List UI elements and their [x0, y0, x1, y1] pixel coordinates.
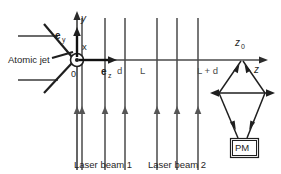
unit-vector-ez-arrowhead — [108, 56, 117, 64]
origin-center-dot — [75, 58, 79, 62]
distance-d-label: d — [117, 65, 122, 76]
distance-labels-group: d L L + d — [117, 65, 218, 76]
laser-beam-1-caption: Laser beam 1 — [74, 159, 132, 170]
y-axis-label: y — [80, 13, 87, 24]
figure-canvas: Atomic jet 0 e y e z y x z — [0, 0, 281, 174]
z0-label: z — [234, 37, 240, 48]
y-axis-arrowhead — [73, 11, 80, 20]
detection-edge-upper-left — [219, 61, 241, 93]
atomic-jet-label: Atomic jet — [8, 54, 50, 65]
distance-L-label: L — [140, 65, 145, 76]
detection-edge-lower-right — [247, 93, 265, 138]
unit-vector-ez-label: e — [101, 66, 107, 77]
laser-beam-arrowhead — [174, 106, 181, 114]
y-axis-beam-arrowhead — [74, 106, 81, 114]
unit-vector-ey-arrowhead — [73, 27, 81, 36]
laser-beam-arrowhead — [154, 106, 161, 114]
transverse-arrow-head-left — [210, 89, 219, 96]
detection-edge-lower-left — [219, 93, 238, 138]
laser-beam-arrowhead — [102, 106, 109, 114]
atomic-jet-group: Atomic jet — [8, 24, 73, 93]
unit-vector-ez-subscript: z — [108, 72, 112, 79]
laser-beam-2-caption: Laser beam 2 — [148, 159, 206, 170]
pm-detector-group: PM — [231, 139, 259, 158]
laser-beam-arrowhead — [195, 106, 202, 114]
atomic-jet-diagonal-bottom — [44, 63, 72, 93]
physics-diagram: Atomic jet 0 e y e z y x z — [0, 0, 281, 174]
origin-label: 0 — [71, 69, 76, 79]
x-axis-label: x — [82, 41, 87, 52]
axis-labels-group: y x z — [80, 13, 259, 75]
pm-detector-label: PM — [235, 142, 249, 153]
unit-vector-ey-label: e — [55, 30, 61, 41]
detection-region-group — [210, 61, 275, 138]
z-axis-label: z — [253, 64, 259, 75]
z0-label-group: z 0 — [234, 37, 245, 50]
z0-subscript: 0 — [241, 43, 245, 50]
z-axis-arrowhead — [259, 56, 268, 63]
unit-vector-ey-subscript: y — [62, 36, 66, 44]
laser-beam-arrowhead — [122, 106, 129, 114]
distance-L-plus-d-label: L + d — [197, 65, 218, 76]
unit-vector-ez-group: e z — [79, 56, 117, 79]
transverse-arrow-head-right — [266, 89, 275, 96]
laser-beam-2-group — [154, 18, 202, 170]
beam-captions-group: Laser beam 1 Laser beam 2 — [74, 159, 206, 170]
